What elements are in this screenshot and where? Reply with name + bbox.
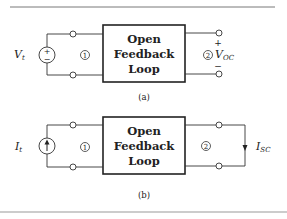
arrow-down-icon: [243, 145, 248, 151]
terminal: [70, 164, 76, 170]
box-line-1: Open: [127, 124, 161, 138]
box-line-3: Loop: [128, 62, 159, 76]
panel-a: Open Feedback Loop + − Vt 1 + − 2 VOC: [14, 25, 235, 102]
terminal: [70, 122, 76, 128]
box-line-3: Loop: [128, 154, 159, 168]
box-line-2: Feedback: [114, 139, 176, 153]
box-line-1: Open: [127, 32, 161, 46]
output-label: ISC: [255, 140, 271, 154]
output-plus: +: [214, 38, 222, 48]
panel-b: Open Feedback Loop It 1 2 ISC: [14, 117, 271, 200]
caption-a: (a): [138, 92, 150, 102]
terminal: [216, 30, 222, 36]
terminal: [216, 71, 222, 77]
source-label: Vt: [14, 48, 25, 62]
source-minus: −: [44, 55, 51, 64]
svg-text:1: 1: [83, 52, 87, 60]
terminal: [216, 122, 222, 128]
svg-text:2: 2: [204, 143, 208, 151]
circuit-figure: Open Feedback Loop + − Vt 1 + − 2 VOC: [0, 0, 287, 219]
svg-text:2: 2: [206, 52, 210, 60]
svg-text:1: 1: [83, 144, 87, 152]
terminal: [70, 31, 76, 37]
output-minus: −: [214, 61, 222, 71]
terminal: [216, 163, 222, 169]
source-label: It: [14, 140, 22, 154]
terminal: [70, 72, 76, 78]
output-label: VOC: [215, 48, 235, 62]
caption-b: (b): [138, 190, 150, 200]
box-line-2: Feedback: [114, 47, 176, 61]
